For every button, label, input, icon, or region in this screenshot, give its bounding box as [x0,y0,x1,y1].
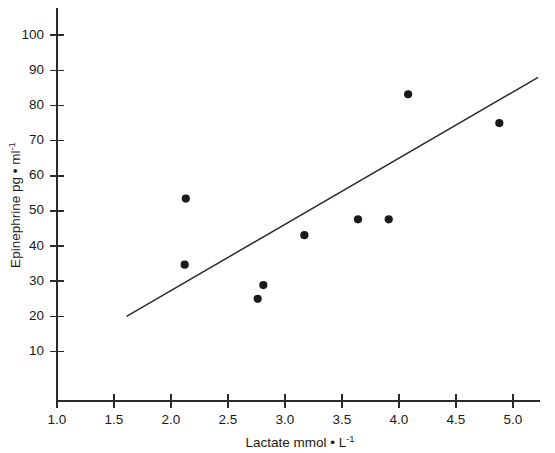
x-axis-title: Lactate mmol • L-1 [245,433,354,451]
axes-group [57,8,540,401]
data-point [495,119,503,127]
data-point [354,215,362,223]
y-tick-label-80: 80 [29,97,44,112]
y-tick-label-50: 50 [29,202,44,217]
y-tick-label-100: 100 [21,27,44,42]
data-point [181,261,189,269]
data-point [404,90,412,98]
data-point [182,195,190,203]
data-point [385,215,393,223]
y-axis-title: Epinephrine pg • ml-1 [6,142,24,268]
x-tick-group: 1.0 1.5 2.0 2.5 3.0 3.5 4.0 4.5 5.0 [48,394,523,427]
x-tick-label-3-5: 3.5 [333,412,352,427]
y-tick-label-40: 40 [29,238,44,253]
x-tick-label-1-5: 1.5 [105,412,124,427]
data-point [259,281,267,289]
x-tick-label-4-5: 4.5 [447,412,466,427]
x-tick-label-3-0: 3.0 [276,412,295,427]
data-point [254,295,262,303]
scatter-chart: 100 90 80 70 60 50 40 30 20 10 1.0 [0,0,555,453]
y-axis-title-exponent: -1 [6,142,17,150]
y-axis-title-base: Epinephrine pg • ml [8,151,23,268]
y-tick-label-60: 60 [29,167,44,182]
y-tick-label-30: 30 [29,273,44,288]
y-tick-label-20: 20 [29,308,44,323]
data-point [300,231,308,239]
x-tick-label-1-0: 1.0 [48,412,67,427]
data-points-group [181,90,504,303]
x-tick-label-4-0: 4.0 [390,412,409,427]
y-tick-label-90: 90 [29,62,44,77]
x-axis-title-base: Lactate mmol • L [245,435,346,450]
y-tick-label-10: 10 [29,343,44,358]
x-tick-label-2-0: 2.0 [162,412,181,427]
x-tick-label-2-5: 2.5 [219,412,238,427]
y-tick-label-70: 70 [29,132,44,147]
x-axis-title-exponent: -1 [346,433,354,444]
plot-area: 100 90 80 70 60 50 40 30 20 10 1.0 [0,0,555,453]
x-tick-label-5-0: 5.0 [504,412,523,427]
